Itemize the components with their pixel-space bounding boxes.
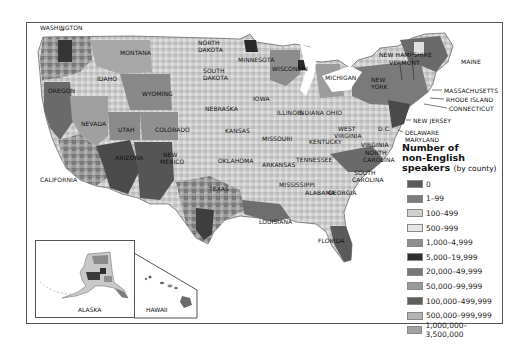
inset-shapes — [0, 0, 529, 347]
alaska-label: ALASKA — [78, 306, 101, 313]
hawaii-label: HAWAII — [146, 306, 168, 313]
hawaii-island — [145, 278, 147, 280]
